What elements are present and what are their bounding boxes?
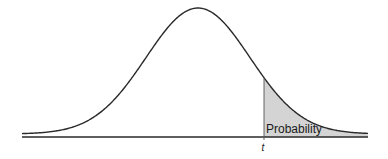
bell-curve	[22, 8, 368, 134]
t-axis-label: t	[262, 142, 266, 153]
probability-label: Probability	[266, 122, 322, 136]
distribution-chart: Probability t	[0, 0, 388, 159]
